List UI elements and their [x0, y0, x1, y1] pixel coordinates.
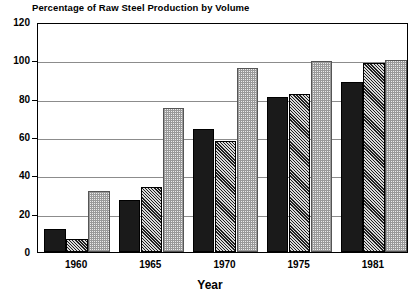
bar-1960-series-3: [88, 191, 110, 252]
y-tick-label: 60: [0, 133, 30, 143]
x-tick-label: 1975: [274, 260, 324, 270]
x-tick-label: 1981: [348, 260, 398, 270]
bar-1975-series-2: [289, 94, 311, 252]
bar-1981-series-1: [341, 82, 363, 252]
bar-1970-series-2: [215, 141, 237, 252]
bar-chart: Percentage of Raw Steel Production by Vo…: [0, 0, 420, 299]
bar-1960-series-2: [66, 239, 88, 252]
bar-1981-series-3: [385, 60, 407, 252]
x-tick-label: 1965: [125, 260, 175, 270]
y-tick-label: 80: [0, 95, 30, 105]
plot-area: [37, 23, 408, 253]
gridline: [38, 62, 407, 63]
bar-1970-series-1: [193, 129, 215, 252]
x-tick-label: 1960: [51, 260, 101, 270]
y-tick-label: 0: [0, 248, 30, 258]
y-tick-label: 120: [0, 18, 30, 28]
x-axis-title: Year: [0, 278, 420, 292]
chart-title: Percentage of Raw Steel Production by Vo…: [32, 2, 250, 13]
y-tick-label: 100: [0, 56, 30, 66]
bar-1965-series-1: [119, 200, 141, 252]
y-tick-label: 20: [0, 210, 30, 220]
bar-1970-series-3: [237, 68, 259, 252]
bar-1965-series-3: [163, 108, 185, 252]
bar-1981-series-2: [363, 63, 385, 252]
bar-1975-series-3: [311, 61, 333, 252]
x-tick-label: 1970: [200, 260, 250, 270]
bar-1965-series-2: [141, 187, 163, 252]
y-tick-label: 40: [0, 171, 30, 181]
bar-1975-series-1: [267, 97, 289, 252]
bar-1960-series-1: [44, 229, 66, 252]
